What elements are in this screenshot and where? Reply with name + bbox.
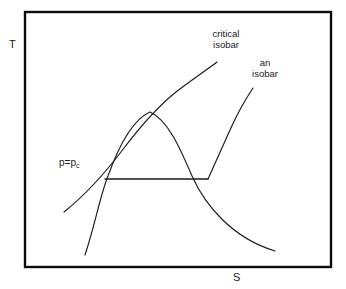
plot-border-box [25, 12, 331, 267]
critical-pressure-label-subscript: c [76, 162, 80, 169]
critical-isobar-label-line2: isobar [213, 39, 239, 50]
an-isobar-label: an isobar [241, 57, 289, 79]
an-isobar-label-line1: an [260, 57, 271, 68]
critical-isobar-label-line1: critical [213, 28, 240, 39]
ts-diagram-svg [0, 0, 346, 289]
y-axis-label: T [9, 38, 16, 50]
x-axis-label: S [233, 271, 240, 283]
critical-pressure-label-main: p=p [59, 157, 76, 168]
figure-canvas: T S critical isobar an isobar p=pc [0, 0, 346, 289]
an-isobar-label-line2: isobar [252, 68, 278, 79]
critical-pressure-label: p=pc [59, 157, 79, 170]
critical-isobar-label: critical isobar [198, 28, 254, 50]
